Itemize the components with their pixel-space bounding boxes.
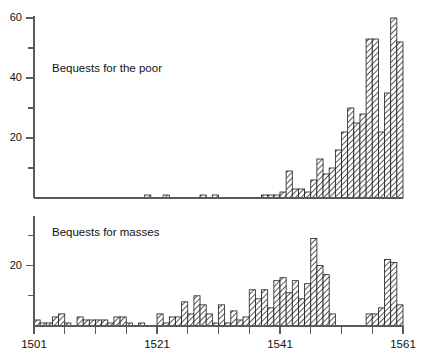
bar-masses (102, 320, 108, 326)
bar-poor (286, 171, 292, 198)
bar-poor (372, 39, 378, 198)
bar-poor (329, 168, 335, 198)
bar-masses (237, 320, 243, 326)
bar-masses (175, 317, 181, 326)
bar-poor (280, 192, 286, 198)
x-axis: 1501152115411561 (21, 326, 416, 350)
bar-poor (385, 93, 391, 198)
bar-poor (366, 39, 372, 198)
top-panel-bars (145, 18, 403, 198)
bar-masses (262, 290, 268, 326)
bar-masses (114, 317, 120, 326)
bequests-histogram-figure: 204060 Bequests for the poor 20 Bequests… (0, 0, 423, 361)
bar-masses (323, 275, 329, 326)
bar-poor (354, 123, 360, 198)
bar-masses (188, 314, 194, 326)
top-panel-bequests-for-the-poor: 204060 Bequests for the poor (10, 11, 403, 198)
x-tick-label: 1521 (144, 338, 170, 350)
bar-masses (378, 308, 384, 326)
bar-masses (96, 320, 102, 326)
bar-masses (317, 266, 323, 326)
bar-poor (317, 159, 323, 198)
y-tick-label: 40 (10, 71, 22, 83)
bar-masses (391, 263, 397, 326)
bar-masses (243, 317, 249, 326)
bar-poor (305, 192, 311, 198)
y-tick-label: 20 (10, 259, 22, 271)
bar-poor (292, 189, 298, 198)
bottom-panel-bequests-for-masses: 20 Bequests for masses (10, 216, 403, 326)
bar-masses (182, 302, 188, 326)
bar-masses (89, 320, 95, 326)
bar-masses (194, 296, 200, 326)
bar-masses (157, 314, 163, 326)
bar-masses (292, 281, 298, 326)
bar-masses (311, 238, 317, 326)
bottom-panel-label: Bequests for masses (52, 226, 160, 238)
bar-masses (200, 305, 206, 326)
bar-masses (397, 305, 403, 326)
bar-poor (298, 189, 304, 198)
bar-poor (342, 132, 348, 198)
bar-masses (274, 281, 280, 326)
top-panel-label: Bequests for the poor (52, 62, 162, 74)
bar-poor (391, 18, 397, 198)
bar-masses (385, 260, 391, 326)
y-tick-label: 20 (10, 131, 22, 143)
bar-masses (372, 314, 378, 326)
bar-poor (348, 108, 354, 198)
bar-poor (360, 114, 366, 198)
histogram-svg: 204060 Bequests for the poor 20 Bequests… (0, 0, 423, 361)
bar-masses (120, 317, 126, 326)
bar-masses (34, 320, 40, 326)
y-tick-label: 60 (10, 11, 22, 23)
bar-masses (366, 314, 372, 326)
bar-poor (378, 132, 384, 198)
bar-poor (311, 180, 317, 198)
bar-masses (59, 314, 65, 326)
bar-poor (397, 42, 403, 198)
bar-masses (286, 293, 292, 326)
bar-masses (298, 299, 304, 326)
bar-masses (231, 311, 237, 326)
bar-poor (335, 150, 341, 198)
bar-masses (219, 305, 225, 326)
bottom-panel-bars (34, 238, 403, 326)
x-tick-label: 1561 (390, 338, 416, 350)
bar-masses (255, 299, 261, 326)
bar-poor (323, 174, 329, 198)
bar-masses (206, 314, 212, 326)
x-tick-label: 1541 (267, 338, 293, 350)
bar-masses (280, 278, 286, 326)
bar-masses (83, 320, 89, 326)
bar-masses (169, 317, 175, 326)
x-tick-label: 1501 (21, 338, 47, 350)
bar-masses (329, 314, 335, 326)
bar-masses (52, 317, 58, 326)
bar-masses (305, 284, 311, 326)
bar-masses (77, 317, 83, 326)
bar-masses (249, 290, 255, 326)
bar-masses (268, 308, 274, 326)
